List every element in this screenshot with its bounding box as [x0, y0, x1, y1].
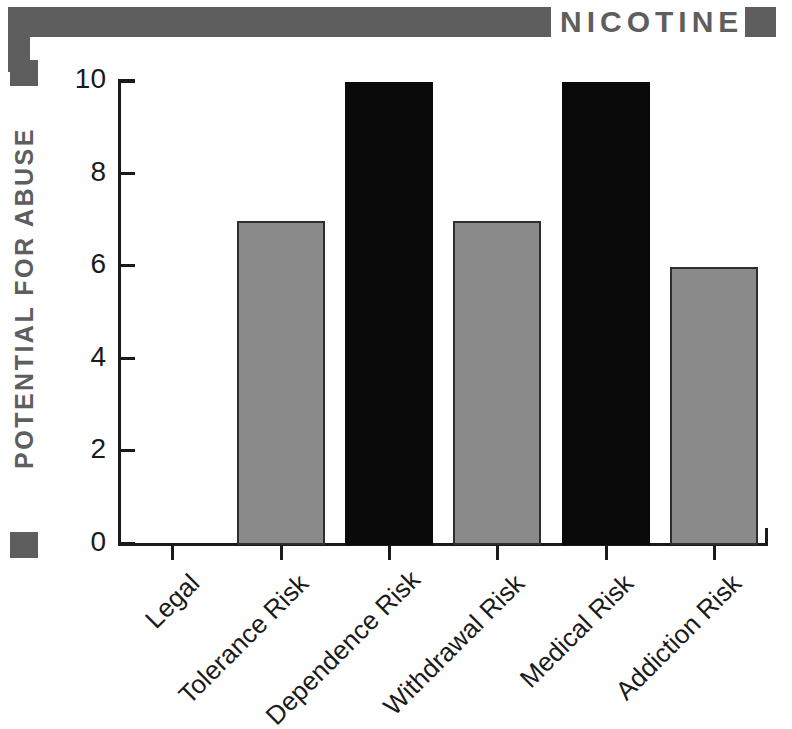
y-tick-mark — [118, 172, 135, 175]
bar — [670, 267, 758, 545]
y-axis-block-bottom — [10, 532, 38, 558]
y-tick-label: 8 — [60, 157, 106, 187]
y-tick-mark — [118, 449, 135, 452]
bar — [345, 82, 433, 545]
y-axis-title: POTENTIAL FOR ABUSE — [6, 98, 42, 498]
bar — [562, 82, 650, 545]
y-tick-label: 6 — [60, 249, 106, 279]
y-tick-label: 2 — [60, 434, 106, 464]
x-tick-mark — [713, 546, 716, 560]
y-axis-title-group: POTENTIAL FOR ABUSE — [6, 60, 46, 560]
bar — [453, 221, 541, 545]
plot-area: 0246810 LegalTolerance RiskDependence Ri… — [118, 80, 774, 548]
y-axis-line — [118, 80, 121, 546]
y-tick-mark — [118, 357, 135, 360]
y-tick-label: 10 — [60, 64, 106, 94]
y-tick-mark — [118, 264, 135, 267]
y-tick-label: 4 — [60, 342, 106, 372]
y-axis-block-top — [10, 60, 38, 86]
header-block-right — [745, 7, 776, 37]
x-tick-mark — [496, 546, 499, 560]
y-tick-mark — [118, 79, 135, 82]
chart-title: NICOTINE — [560, 2, 738, 42]
x-tick-mark — [388, 546, 391, 560]
y-tick-mark — [118, 542, 135, 545]
y-tick-label: 0 — [60, 527, 106, 557]
x-tick-mark — [280, 546, 283, 560]
header-rule-horizontal — [8, 7, 551, 37]
x-tick-mark — [171, 546, 174, 560]
bar — [237, 221, 325, 545]
x-tick-mark — [605, 546, 608, 560]
x-axis-right-cap — [765, 528, 768, 546]
